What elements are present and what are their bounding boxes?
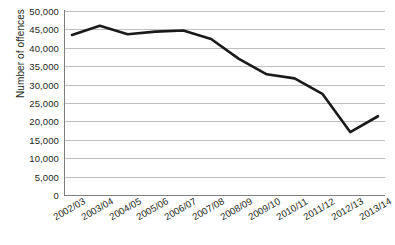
- x-axis-tick-labels: 2002/032003/042004/052005/062006/072007/…: [0, 0, 395, 245]
- x-axis-tick-label: 2013/14: [357, 195, 393, 222]
- line-chart: Number of offences 50,00045,00040,00035,…: [0, 0, 395, 245]
